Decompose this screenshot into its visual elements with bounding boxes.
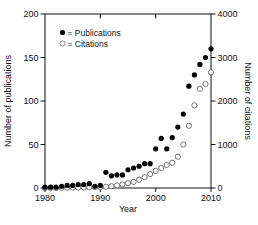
citations-point (203, 81, 208, 86)
tick-label: 150 (23, 53, 38, 63)
tick-label: 2000 (146, 193, 166, 203)
legend: = Publications = Citations (60, 28, 121, 49)
right-y-axis-title: Number of citations (243, 62, 253, 140)
citations-point (125, 181, 130, 186)
publications-point (59, 184, 64, 189)
publications-point (103, 170, 108, 175)
citations-point (114, 183, 119, 188)
citations-point (164, 162, 169, 167)
publications-point (197, 62, 202, 67)
publications-point (48, 185, 53, 190)
citations-point (175, 154, 180, 159)
publications-point (114, 172, 119, 177)
publications-point (92, 184, 97, 189)
citations-point (186, 123, 191, 128)
chart-figure: 1980199020002010050100150200010002000300… (0, 0, 258, 225)
publications-point (170, 135, 175, 140)
publications-point (181, 111, 186, 116)
left-y-axis-title: Number of publications (3, 54, 13, 147)
publications-point (208, 46, 213, 51)
citations-point (148, 171, 153, 176)
axis-ticks: 1980199020002010050100150200010002000300… (23, 9, 237, 203)
tick-label: 100 (23, 96, 38, 106)
tick-label: 3000 (218, 53, 238, 63)
tick-label: 200 (23, 9, 38, 19)
publications-point (192, 72, 197, 77)
citations-point (170, 160, 175, 165)
tick-label: 1990 (90, 193, 110, 203)
publications-point (98, 183, 103, 188)
citations-point (153, 168, 158, 173)
tick-label: 1000 (218, 140, 238, 150)
publications-point (76, 182, 81, 187)
tick-label: 2010 (201, 193, 221, 203)
scatter-chart: 1980199020002010050100150200010002000300… (0, 0, 258, 225)
publications-point (53, 185, 58, 190)
tick-label: 1980 (35, 193, 55, 203)
citations-point (159, 165, 164, 170)
publications-point (159, 136, 164, 141)
publications-point (153, 146, 158, 151)
citations-point (197, 86, 202, 91)
data-points (42, 46, 213, 190)
citations-point (208, 70, 213, 75)
publications-point (142, 161, 147, 166)
publications-point (65, 183, 70, 188)
tick-label: 0 (33, 183, 38, 193)
publications-point (87, 181, 92, 186)
publications-point (70, 183, 75, 188)
filled-circle-legend-icon (60, 30, 65, 35)
tick-label: 4000 (218, 9, 238, 19)
publications-point (42, 185, 47, 190)
publications-point (120, 172, 125, 177)
open-circle-legend-icon (60, 41, 65, 46)
tick-label: 50 (28, 140, 38, 150)
legend-label-citations: = Citations (68, 39, 108, 49)
publications-point (131, 165, 136, 170)
publications-point (125, 167, 130, 172)
citations-point (131, 179, 136, 184)
legend-label-publications: = Publications (68, 28, 121, 38)
tick-label: 2000 (218, 96, 238, 106)
publications-point (148, 161, 153, 166)
publications-point (81, 182, 86, 187)
tick-label: 0 (218, 183, 223, 193)
citations-point (181, 142, 186, 147)
citations-point (192, 103, 197, 108)
publications-point (175, 125, 180, 130)
publications-point (203, 55, 208, 60)
publications-point (164, 146, 169, 151)
citations-point (120, 182, 125, 187)
citations-point (109, 184, 114, 189)
publications-point (109, 173, 114, 178)
citations-point (103, 184, 108, 189)
citations-point (136, 177, 141, 182)
citations-point (142, 175, 147, 180)
x-axis-title: Year (119, 204, 137, 214)
publications-point (186, 84, 191, 89)
publications-point (136, 164, 141, 169)
